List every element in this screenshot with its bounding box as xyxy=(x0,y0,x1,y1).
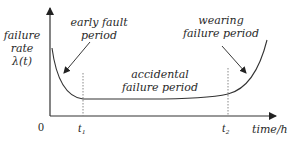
wearing-failure-label: wearing failure period xyxy=(176,14,266,40)
early-fault-line-1: early fault xyxy=(64,16,134,29)
origin-label: 0 xyxy=(38,120,44,135)
t1-label: t₁ xyxy=(78,121,86,136)
y-label-line-3: λ(t) xyxy=(2,55,42,68)
wearing-line-2: failure period xyxy=(176,27,266,40)
wearing-failure-pointer xyxy=(222,46,246,73)
y-label-line-1: failure xyxy=(2,29,42,42)
bathtub-curve-diagram: failure rate λ(t) early fault period wea… xyxy=(0,0,301,143)
accidental-line-2: failure period xyxy=(110,81,210,94)
early-fault-label: early fault period xyxy=(64,16,134,42)
accidental-failure-label: accidental failure period xyxy=(110,68,210,94)
y-axis-label: failure rate λ(t) xyxy=(2,29,42,68)
accidental-line-1: accidental xyxy=(110,68,210,81)
early-fault-line-2: period xyxy=(64,29,134,42)
t2-label: t₂ xyxy=(222,121,230,136)
wearing-line-1: wearing xyxy=(176,14,266,27)
early-fault-pointer xyxy=(64,42,90,73)
x-axis-label: time/h xyxy=(252,123,288,136)
y-label-line-2: rate xyxy=(2,42,42,55)
